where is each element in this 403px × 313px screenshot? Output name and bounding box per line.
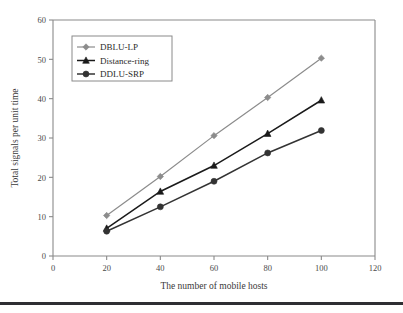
x-tick-label: 60 [210, 263, 219, 273]
x-tick-label: 0 [51, 263, 55, 273]
x-tick-label: 120 [369, 263, 382, 273]
legend-label: Distance-ring [100, 56, 149, 66]
marker-triangle [318, 97, 325, 103]
x-axis-title: The number of mobile hosts [160, 281, 267, 291]
legend-label: DBLU-LP [100, 42, 138, 52]
y-axis-title: Total signals per unit time [10, 88, 20, 187]
figure-container: 0102030405060020406080100120The number o… [0, 0, 403, 313]
y-tick-label: 20 [38, 173, 47, 183]
line-chart: 0102030405060020406080100120The number o… [0, 0, 403, 313]
y-tick-label: 10 [38, 212, 47, 222]
marker-circle [265, 150, 271, 156]
bottom-divider-rule [0, 302, 403, 305]
y-tick-label: 50 [38, 55, 47, 65]
x-tick-label: 80 [263, 263, 272, 273]
marker-circle [104, 228, 110, 234]
marker-triangle [211, 162, 218, 168]
x-tick-label: 20 [102, 263, 111, 273]
legend: DBLU-LPDistance-ringDDLU-SRP [72, 36, 172, 81]
x-tick-label: 40 [156, 263, 165, 273]
marker-circle [318, 128, 324, 134]
series-ddlu-srp [104, 128, 325, 235]
marker-circle [157, 204, 163, 210]
x-tick-label: 100 [315, 263, 328, 273]
y-tick-label: 40 [38, 94, 47, 104]
series-distance-ring [103, 97, 324, 232]
marker-triangle [264, 130, 271, 136]
marker-circle [83, 71, 89, 77]
y-tick-label: 30 [38, 133, 47, 143]
legend-label: DDLU-SRP [100, 69, 144, 79]
y-tick-label: 0 [42, 251, 46, 261]
y-tick-label: 60 [38, 15, 47, 25]
marker-circle [211, 178, 217, 184]
